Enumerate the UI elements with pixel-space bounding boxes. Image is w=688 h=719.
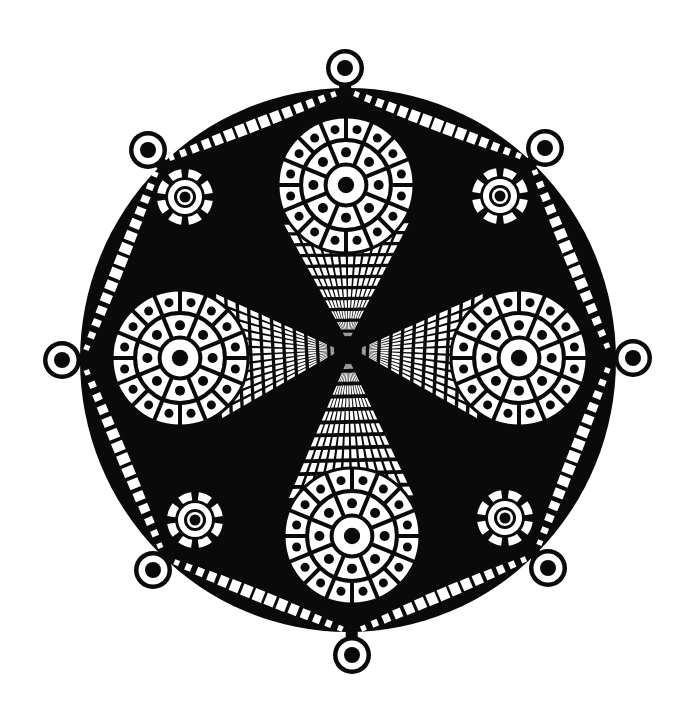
knob-bottom-icon <box>333 625 371 674</box>
center-hub <box>334 336 362 364</box>
mandala-illustration <box>0 0 688 719</box>
mandala-svg <box>0 0 688 719</box>
